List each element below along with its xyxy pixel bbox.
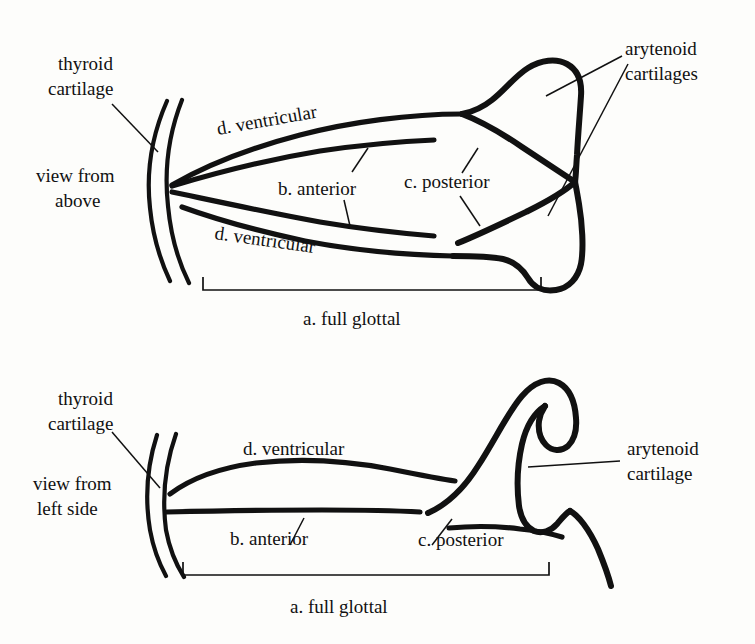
arytenoid-cartilage-bottom-inner (518, 406, 570, 532)
leader-thyroid-cartilage-bottom (112, 432, 160, 488)
arytenoid-cartilage-bottom-tail (570, 511, 611, 586)
thyroid-cartilage-label-top-line2: cartilage (48, 78, 113, 99)
diagram-canvas: thyroid cartilage view from above aryten… (0, 0, 755, 644)
panel-view-from-above (112, 56, 628, 290)
view-label-top-line2: above (55, 190, 100, 211)
thyroid-cartilage-label-bottom-line1: thyroid (58, 388, 113, 409)
posterior-fold-label-bottom: c. posterior (418, 529, 504, 550)
anterior-fold-label-bottom: b. anterior (230, 528, 309, 549)
leader-arytenoid-bottom (528, 461, 620, 467)
leader-anterior-lower-top (344, 200, 350, 226)
full-glottal-label-top: a. full glottal (303, 308, 401, 329)
view-label-top-line1: view from (36, 165, 115, 186)
leader-posterior-lower-top (460, 196, 480, 226)
view-label-bottom-line2: left side (37, 498, 98, 519)
leader-posterior-upper-top (462, 148, 478, 173)
arytenoid-cartilages-label-top-line2: cartilages (625, 63, 698, 84)
laryngeal-diagram-figure: thyroid cartilage view from above aryten… (0, 0, 755, 644)
arytenoid-cartilage-bottom-outline (428, 381, 576, 513)
thyroid-cartilage-label-top-line1: thyroid (58, 53, 113, 74)
ventricular-fold-label-bottom: d. ventricular (243, 438, 345, 459)
anterior-fold-label-top: b. anterior (278, 178, 357, 199)
glottal-span-bracket-bottom (183, 562, 549, 575)
glottal-span-bracket-top (203, 277, 541, 290)
arytenoid-cartilage-label-bottom-line1: arytenoid (627, 438, 699, 459)
arytenoid-cartilage-label-bottom-line2: cartilage (627, 463, 692, 484)
full-glottal-label-bottom: a. full glottal (290, 596, 388, 617)
leader-thyroid-cartilage-top (112, 104, 158, 152)
thyroid-cartilage-label-bottom-line2: cartilage (48, 413, 113, 434)
posterior-fold-label-top: c. posterior (404, 171, 490, 192)
leader-anterior-upper-top (352, 148, 368, 172)
ventricular-fold-bottom (170, 461, 455, 494)
ventricular-fold-label-lower-top: d. ventricular (213, 222, 317, 257)
leader-arytenoid-lower-top (548, 64, 628, 216)
view-label-bottom-line1: view from (33, 473, 112, 494)
thyroid-cartilage-inner-arc-bottom (164, 434, 184, 577)
panel-view-from-left-side (112, 381, 620, 586)
anterior-fold-bottom (167, 510, 420, 512)
arytenoid-cartilages-label-top-line1: arytenoid (625, 38, 697, 59)
